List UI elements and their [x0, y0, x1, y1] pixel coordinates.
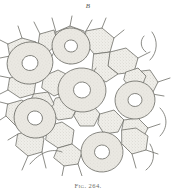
free-cell-wall [132, 154, 136, 168]
marginal-arc [160, 108, 166, 136]
free-cell-wall [18, 26, 22, 38]
free-cell-wall [0, 76, 10, 78]
free-cell-wall [8, 134, 18, 140]
ring-cell [80, 131, 125, 174]
free-cell-wall [138, 52, 150, 58]
free-cell-wall [148, 124, 160, 128]
free-cell-wall [86, 20, 92, 31]
free-cell-wall [42, 152, 46, 168]
marginal-arc [141, 36, 146, 52]
free-cell-wall [158, 78, 170, 82]
marginal-arc [150, 32, 156, 60]
marginal-arc [146, 144, 153, 170]
free-cell-wall [102, 18, 106, 28]
free-cell-wall [0, 40, 8, 44]
cell-mosaic-drawing [0, 12, 176, 176]
drawing-canvas [0, 12, 176, 176]
figure-plate: B Fig. 264. [0, 0, 176, 192]
free-cell-wall [146, 150, 158, 154]
free-cell-wall [0, 90, 8, 94]
free-cell-wall [78, 164, 82, 176]
free-cell-wall [34, 22, 40, 34]
panel-label: B [0, 2, 176, 11]
free-cell-wall [22, 156, 28, 170]
free-cell-wall [0, 102, 8, 104]
free-cell-wall [0, 116, 6, 120]
free-cell-wall [70, 16, 72, 26]
polygon-cell [86, 28, 114, 54]
free-cell-wall [62, 166, 64, 176]
free-cell-wall [114, 30, 124, 38]
figure-caption: Fig. 264. [0, 182, 176, 190]
polygon-cell [98, 110, 124, 134]
